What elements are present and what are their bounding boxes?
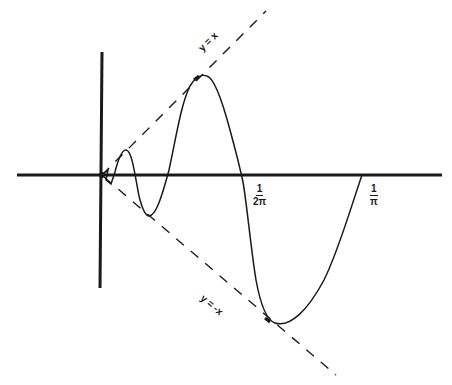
envelope-line-y-equals-neg-x: [104, 177, 336, 375]
tick-label-one-over-pi: 1 π: [370, 183, 378, 207]
y-axis: [100, 52, 102, 288]
tick-numerator: 1: [370, 184, 378, 196]
tick-label-one-over-two-pi: 1 2π: [253, 183, 266, 207]
tick-numerator: 1: [256, 184, 264, 196]
tick-denominator: 2π: [253, 196, 266, 207]
tick-denominator: π: [370, 196, 378, 207]
curve-x-sin-one-over-x: [102, 75, 362, 324]
origin-point: [99, 172, 105, 178]
function-graph: [0, 0, 452, 385]
